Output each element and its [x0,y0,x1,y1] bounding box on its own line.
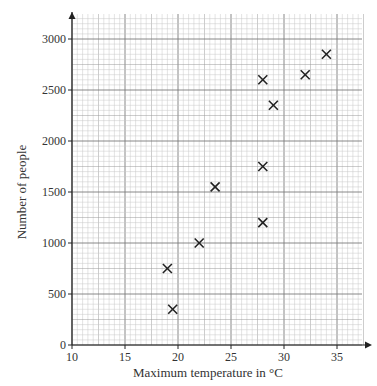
svg-text:30: 30 [278,350,290,364]
svg-text:2500: 2500 [42,83,66,97]
x-axis-label: Maximum temperature in °C [133,365,283,380]
svg-text:2000: 2000 [42,134,66,148]
scatter-chart: 101520253035050010001500200025003000 Max… [0,0,377,386]
svg-text:1500: 1500 [42,185,66,199]
svg-text:1000: 1000 [42,236,66,250]
svg-text:35: 35 [331,350,343,364]
svg-text:20: 20 [172,350,184,364]
svg-text:10: 10 [66,350,78,364]
svg-text:0: 0 [60,338,66,352]
y-axis-label: Number of people [14,144,29,239]
svg-text:3000: 3000 [42,32,66,46]
svg-text:25: 25 [225,350,237,364]
svg-text:500: 500 [48,287,66,301]
svg-text:15: 15 [119,350,131,364]
graph-paper-grid [72,14,364,345]
